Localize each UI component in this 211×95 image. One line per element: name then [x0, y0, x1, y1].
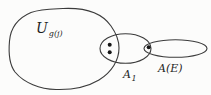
universe-set-label-subscript: g(j) [49, 29, 63, 38]
set-a1-outline [100, 34, 151, 64]
set-diagram-svg [0, 0, 211, 95]
universe-set-label: Ug(j) [36, 21, 62, 35]
universe-set-outline [9, 8, 119, 89]
element-dot-1 [108, 43, 112, 47]
set-a1-label: A1 [123, 69, 136, 80]
set-a1-label-subscript: 1 [131, 74, 136, 83]
set-diagram-canvas: Ug(j) A1 A(E) [0, 0, 211, 95]
element-dot-3 [147, 45, 151, 49]
set-a1-label-main: A [123, 68, 131, 81]
set-ae-label: A(E) [158, 63, 183, 74]
universe-set-label-main: U [36, 20, 48, 36]
set-ae-label-main: A(E) [158, 62, 183, 75]
element-dot-2 [108, 50, 112, 54]
set-ae-outline [144, 40, 207, 58]
